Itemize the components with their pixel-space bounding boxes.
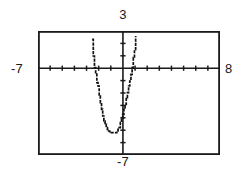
- plot-frame: [38, 31, 220, 155]
- window-label-ymin: -7: [0, 155, 238, 168]
- calculator-graph-screenshot: 3 -7 8 -7: [0, 0, 238, 176]
- plot-canvas: [38, 31, 220, 155]
- window-label-ymax: 3: [0, 8, 238, 21]
- window-label-xmax: 8: [225, 62, 232, 75]
- window-label-xmin: -7: [11, 62, 23, 75]
